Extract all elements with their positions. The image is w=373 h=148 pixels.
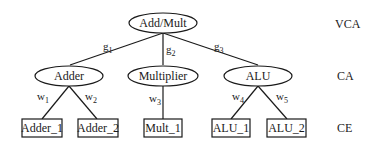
node-element-adder1: Adder_1	[21, 119, 63, 137]
edge-root-adder	[70, 33, 163, 65]
level-label-vca: VCA	[335, 17, 361, 31]
element-label: Adder_1	[21, 121, 63, 135]
node-element-adder2: Adder_2	[77, 119, 119, 137]
category-label: Adder	[54, 69, 84, 83]
edge-label-w3: w3	[149, 92, 161, 107]
node-element-alu2: ALU_2	[267, 119, 306, 137]
node-root: Add/Mult	[129, 13, 197, 33]
edge-label-w5: w5	[276, 90, 288, 105]
edge-root-alu	[163, 33, 258, 65]
element-label: Mult_1	[145, 121, 180, 135]
node-element-mult1: Mult_1	[144, 119, 182, 137]
edge-label-w4: w4	[232, 90, 244, 105]
node-element-alu1: ALU_1	[212, 119, 250, 137]
category-label: Multiplier	[139, 69, 188, 83]
edge-label-g2: g2	[166, 43, 176, 58]
element-label: ALU_2	[268, 121, 305, 135]
edge-label-w2: w2	[85, 90, 97, 105]
node-category-multiplier: Multiplier	[128, 66, 198, 86]
edge-label-g3: g3	[214, 40, 224, 55]
element-label: ALU_1	[213, 121, 250, 135]
node-category-adder: Adder	[35, 66, 103, 86]
edge-label-w1: w1	[37, 90, 49, 105]
hierarchy-diagram: Add/Mult Adder Multiplier ALU Adder_1 Ad…	[0, 0, 373, 148]
node-category-alu: ALU	[224, 66, 292, 86]
category-label: ALU	[246, 69, 271, 83]
level-label-ca: CA	[337, 69, 354, 83]
element-label: Adder_2	[77, 121, 119, 135]
level-label-ce: CE	[337, 121, 352, 135]
root-label: Add/Mult	[139, 16, 187, 30]
